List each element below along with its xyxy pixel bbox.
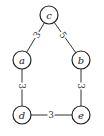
edge-label-c-b: 5 [57,29,69,40]
node-a: a [13,51,31,69]
edge-labels: 3 5 3 3 3 [17,29,86,120]
node-c: c [40,6,58,24]
node-label-b: b [78,55,84,66]
node-label-c: c [46,10,52,21]
nodes: c a b d e [13,6,90,124]
edge-weight-b-e: 3 [76,83,86,89]
edge-weight-a-d: 3 [17,83,27,89]
edge-weight-d-e: 3 [48,110,54,120]
edge-label-b-e: 3 [76,83,86,90]
edges [22,15,81,115]
edge-label-c-a: 3 [31,29,43,40]
node-e: e [72,106,90,124]
node-label-a: a [19,55,25,66]
node-label-d: d [19,110,25,121]
node-label-e: e [78,110,84,121]
node-d: d [13,106,31,124]
edge-label-a-d: 3 [17,83,27,90]
node-b: b [72,51,90,69]
graph-diagram: 3 5 3 3 3 c a b [0,0,104,136]
edge-label-d-e: 3 [48,110,55,120]
